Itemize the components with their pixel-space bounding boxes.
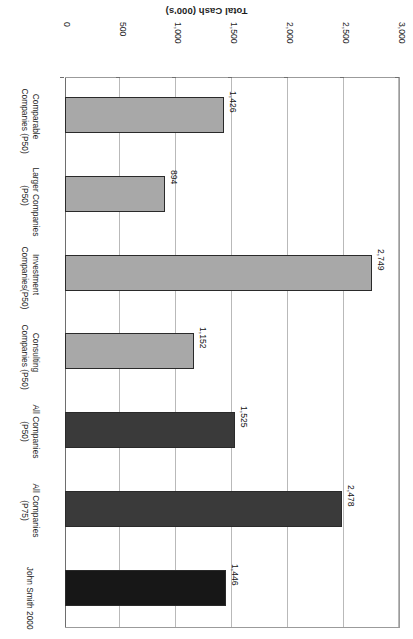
gridline [399, 78, 400, 627]
category-label-line: (P75) [20, 482, 31, 538]
bar [65, 412, 235, 448]
category-label-line: Comparable [30, 89, 41, 145]
value-axis-tick-label: 0 [62, 22, 72, 27]
category-label-line: John Smith 2000 [25, 566, 36, 622]
plot-area [65, 77, 400, 628]
axis-tick-mark [228, 77, 232, 78]
bar [65, 570, 226, 606]
bar [65, 97, 224, 133]
category-axis-label: All Companies(P75) [20, 482, 41, 538]
category-axis-label: InvestmentCompanies(P50) [20, 246, 41, 302]
value-axis-tick-label: 500 [118, 22, 128, 36]
bar-value-label: 2,478 [346, 485, 356, 507]
axis-tick-mark [396, 77, 400, 78]
value-axis-tick-label: 2,500 [341, 22, 351, 44]
value-axis-title: Total Cash (000's) [0, 6, 413, 17]
value-axis-tick-label: 3,000 [397, 22, 407, 44]
axis-tick-mark [284, 77, 288, 78]
bar-value-label: 894 [169, 170, 179, 184]
axis-tick-mark [116, 77, 120, 78]
category-label-line: Companies (P50) [20, 89, 31, 145]
category-label-line: (P50) [20, 168, 31, 224]
bar [65, 334, 194, 370]
axis-tick-mark [172, 77, 176, 78]
axis-tick-mark [61, 77, 65, 78]
gridline [287, 78, 288, 627]
category-axis-label: Larger Companies(P50) [20, 168, 41, 224]
category-label-line: Larger Companies [30, 168, 41, 224]
bar-value-label: 1,446 [230, 564, 240, 586]
bar [65, 491, 342, 527]
category-axis-label: ComparableCompanies (P50) [20, 89, 41, 145]
value-axis-tick-labels: 05001,0001,5002,0002,5003,000 [0, 22, 413, 62]
category-label-line: Companies (P50) [20, 325, 31, 381]
category-label-line: Consulting [30, 325, 41, 381]
bar [65, 176, 165, 212]
bar [65, 255, 372, 291]
category-axis-label: All Companies(P50) [20, 404, 41, 460]
category-label-line: Investment [30, 246, 41, 302]
value-axis-tick-label: 1,000 [173, 22, 183, 44]
bar-value-label: 1,426 [228, 91, 238, 113]
bar-value-label: 1,152 [198, 328, 208, 350]
category-axis-label: John Smith 2000 [25, 566, 36, 622]
bar-value-label: 1,525 [239, 406, 249, 428]
category-label-line: (P50) [20, 404, 31, 460]
bar-value-label: 2,749 [376, 249, 386, 271]
bar-chart: 05001,0001,5002,0002,5003,000 Total Cash… [0, 0, 413, 639]
category-label-line: Companies(P50) [20, 246, 31, 302]
chart-figure-rotated: 05001,0001,5002,0002,5003,000 Total Cash… [0, 0, 413, 639]
gridline [343, 78, 344, 627]
category-label-line: All Companies [30, 404, 41, 460]
category-label-line: All Companies [30, 482, 41, 538]
value-axis-tick-label: 2,000 [285, 22, 295, 44]
axis-tick-mark [340, 77, 344, 78]
gridline [231, 78, 232, 627]
category-axis-label: ConsultingCompanies (P50) [20, 325, 41, 381]
value-axis-tick-label: 1,500 [229, 22, 239, 44]
